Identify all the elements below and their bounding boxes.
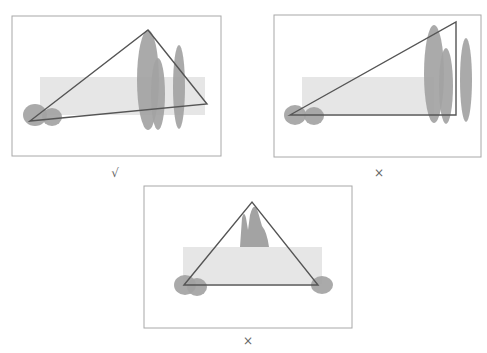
diagram-panel-a (0, 0, 487, 353)
peaks-c (240, 207, 269, 247)
blob-a-3 (151, 58, 165, 130)
blob-b-1 (304, 107, 324, 125)
cross-mark-icon: × (369, 166, 389, 180)
shaded-band-c (183, 247, 322, 284)
blob-a-1 (42, 108, 62, 126)
blob-a-4 (173, 45, 185, 129)
cross-mark-icon: × (238, 334, 258, 348)
blob-b-4 (460, 38, 472, 122)
check-mark-icon: √ (105, 166, 125, 180)
diagram-canvas (0, 0, 487, 353)
blob-b-3 (439, 48, 453, 124)
blob-c-1 (187, 278, 207, 296)
shaded-band-b (302, 77, 434, 114)
